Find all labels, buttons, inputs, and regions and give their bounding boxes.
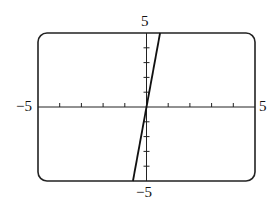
x-max-label: 5 xyxy=(259,99,267,114)
y-max-label: 5 xyxy=(141,14,149,29)
y-min-label: −5 xyxy=(136,185,152,200)
x-min-label: −5 xyxy=(16,99,32,114)
